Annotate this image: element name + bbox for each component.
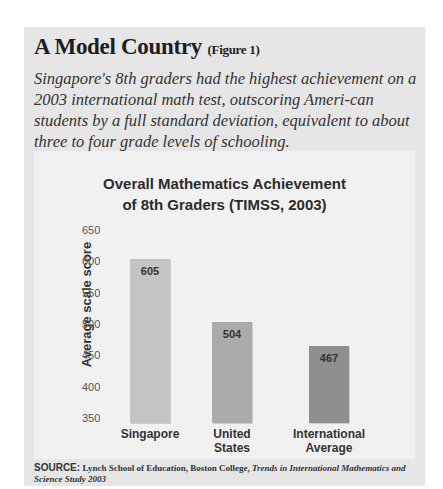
chart-title-line1: Overall Mathematics Achievement	[34, 173, 415, 194]
chart-title: Overall Mathematics Achievement of 8th G…	[34, 173, 415, 215]
x-tick-label: InternationalAverage	[279, 427, 379, 455]
y-tick-label: 650	[82, 224, 116, 236]
source-note: SOURCE: Lynch School of Education, Bosto…	[34, 462, 424, 485]
bar-value-label: 467	[309, 352, 349, 364]
title-text: A Model Country	[34, 34, 202, 59]
x-tick-label: UnitedStates	[182, 427, 282, 455]
bar-international-average: 467	[309, 346, 349, 423]
y-tick-label: 450	[82, 349, 116, 361]
figure-label: (Figure 1)	[207, 42, 259, 57]
bar-united-states: 504	[212, 322, 252, 423]
y-tick-label: 600	[82, 255, 116, 267]
y-tick-label: 350	[82, 412, 116, 424]
y-tick-label: 550	[82, 287, 116, 299]
bar-value-label: 504	[212, 328, 252, 340]
y-tick-label: 400	[82, 381, 116, 393]
figure-title: A Model Country (Figure 1)	[34, 34, 259, 60]
bar-singapore: 605	[130, 259, 170, 423]
chart-title-line2: of 8th Graders (TIMSS, 2003)	[34, 194, 415, 215]
figure-subtitle: Singapore's 8th graders had the highest …	[34, 68, 419, 152]
source-org: Lynch School of Education, Boston Colleg…	[82, 463, 249, 473]
y-tick-label: 500	[82, 318, 116, 330]
bar-value-label: 605	[130, 265, 170, 277]
source-key: SOURCE:	[34, 462, 80, 473]
chart-panel: Overall Mathematics Achievement of 8th G…	[34, 151, 415, 459]
